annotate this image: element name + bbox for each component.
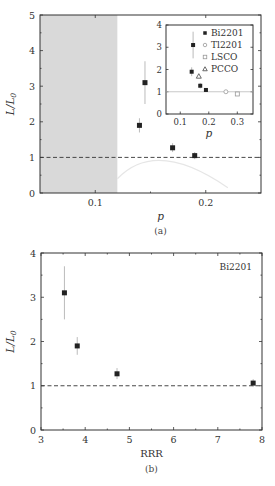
x-tick-label: 5 <box>126 434 132 445</box>
inset-y-tick-label: 4 <box>157 20 162 30</box>
data-point-pcco <box>203 67 208 71</box>
y-tick-label: 3 <box>30 292 36 303</box>
inset-y-tick-label: 0 <box>157 109 162 119</box>
caption-b: (b) <box>145 464 158 474</box>
y-tick-label: 2 <box>29 116 35 127</box>
inset-y-tick-label: 2 <box>157 65 162 75</box>
data-point <box>137 123 142 128</box>
legend-item: LSCO <box>211 52 237 62</box>
legend-item: Tl2201 <box>211 40 243 50</box>
data-point <box>204 88 208 92</box>
chart-a: 0123450.10.2L/L0p(a)012340.10.20.3pBi220… <box>0 0 275 240</box>
data-point <box>142 80 147 85</box>
x-tick-label: 8 <box>259 434 265 445</box>
y-tick-label: 0 <box>29 188 35 199</box>
data-point <box>170 145 175 150</box>
inset-y-tick-label: 3 <box>157 42 162 52</box>
data-point-tl2201 <box>203 43 207 47</box>
x-tick-label: 3 <box>38 434 44 445</box>
x-tick-label: 7 <box>215 434 221 445</box>
data-point <box>62 290 67 295</box>
data-point <box>191 43 195 47</box>
y-tick-label: 2 <box>30 336 36 347</box>
y-tick-label: 3 <box>29 81 35 92</box>
data-point <box>203 31 207 35</box>
legend-item: Bi2201 <box>211 28 243 38</box>
x-tick-label: 0.2 <box>198 197 213 208</box>
data-point <box>75 343 80 348</box>
data-point <box>251 381 256 386</box>
caption-a: (a) <box>154 226 166 236</box>
chart-title: Bi2201 <box>220 262 252 272</box>
x-axis-label: RRR <box>140 448 163 459</box>
y-tick-label: 0 <box>30 425 36 436</box>
x-tick-label: 4 <box>82 434 88 445</box>
x-tick-label: 0.1 <box>88 197 103 208</box>
y-tick-label: 4 <box>29 45 35 56</box>
y-tick-label: 1 <box>29 152 35 163</box>
inset-plot: 012340.10.20.3pBi2201Tl2201LSCOPCCO <box>157 20 253 139</box>
y-tick-label: 1 <box>30 380 36 391</box>
legend-item: PCCO <box>211 64 238 74</box>
data-point <box>198 84 202 88</box>
inset-x-axis-label: p <box>205 127 212 139</box>
y-axis-label: L/L0 <box>4 93 18 116</box>
plot-frame <box>41 253 262 430</box>
y-tick-label: 5 <box>29 10 35 21</box>
y-tick-label: 4 <box>30 248 36 259</box>
data-point <box>190 70 194 74</box>
data-point-lsco <box>235 92 239 96</box>
data-point <box>115 371 120 376</box>
inset-x-tick-label: 0.3 <box>231 117 245 127</box>
inset-x-tick-label: 0.2 <box>202 117 216 127</box>
data-point-pcco <box>196 74 201 79</box>
x-axis-label: p <box>157 210 164 222</box>
inset-x-tick-label: 0.1 <box>173 117 187 127</box>
y-axis-label: L/L0 <box>4 330 18 353</box>
data-point <box>192 153 197 158</box>
faint-arc <box>117 160 228 187</box>
x-tick-label: 6 <box>171 434 177 445</box>
data-point-lsco <box>203 55 207 59</box>
shaded-region <box>40 15 117 193</box>
data-point-tl2201 <box>224 90 228 94</box>
chart-b: 01234345678Bi2201L/L0RRR(b) <box>0 240 275 486</box>
inset-y-tick-label: 1 <box>157 87 162 97</box>
